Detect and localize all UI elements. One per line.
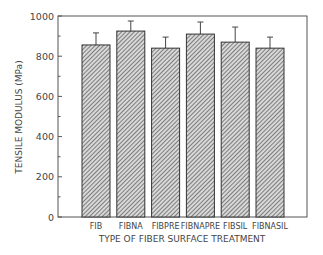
x-tick-label: FIBSIL [223,222,248,231]
y-tick-label: 800 [36,51,54,62]
y-tick-label: 1000 [30,11,54,22]
bar-fibsil [221,27,249,217]
x-tick-label: FIBNA [119,222,143,231]
bar-fibnasil [256,37,284,217]
y-axis-title: TENSILE MODULUS (MPa) [14,60,24,174]
x-axis-title: TYPE OF FIBER SURFACE TREATMENT [98,234,266,244]
y-tick-label: 0 [48,212,54,223]
bar-fibpre [152,37,180,217]
y-axis: 02004006008001000 [30,11,62,223]
x-axis: FIBFIBNAFIBPREFIBNAPREFIBSILFIBNASIL [90,222,289,231]
bar-fib [82,33,110,217]
x-tick-label: FIB [90,222,102,231]
bar-fibna [117,21,145,217]
y-tick-label: 200 [36,171,54,182]
bars [82,21,284,217]
bar-chart: 02004006008001000 FIBFIBNAFIBPREFIBNAPRE… [0,0,323,255]
x-tick-label: FIBPRE [152,222,180,231]
y-tick-label: 600 [36,91,54,102]
x-tick-label: FIBNASIL [252,222,288,231]
bar-fibnapre [186,22,214,217]
x-tick-label: FIBNAPRE [181,222,220,231]
y-tick-label: 400 [36,131,54,142]
